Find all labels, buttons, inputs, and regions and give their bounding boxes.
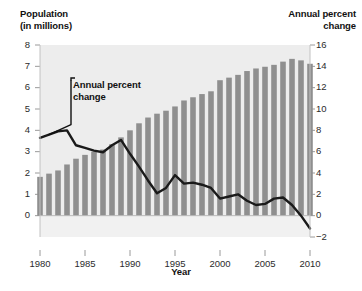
chart-figure: Population (in millions) Annual percent …: [0, 0, 362, 291]
x-axis-tick-label: 1985: [65, 258, 105, 269]
x-axis-tick-label: 1980: [20, 258, 60, 269]
x-axis-tick-labels: 1980198519901995200020052010: [0, 0, 362, 291]
x-axis-tick-label: 1990: [110, 258, 150, 269]
x-axis-tick-label: 2005: [245, 258, 285, 269]
x-axis-tick-label: 2000: [200, 258, 240, 269]
x-axis-tick-label: 1995: [155, 258, 195, 269]
x-axis-tick-label: 2010: [290, 258, 330, 269]
